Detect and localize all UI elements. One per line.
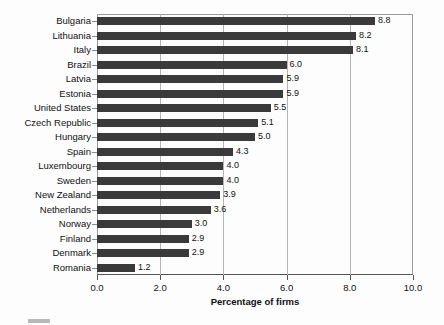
bar-value-label: 2.9: [192, 245, 205, 259]
bar-row: 6.0: [97, 58, 413, 73]
bar-row: 2.9: [97, 246, 413, 261]
bar-row: 8.1: [97, 43, 413, 58]
bar-value-label: 2.9: [192, 231, 205, 245]
bar: [97, 148, 233, 156]
bar: [97, 235, 189, 243]
bar: [97, 177, 223, 185]
bar-row: 4.3: [97, 145, 413, 160]
category-label: Bulgaria: [0, 14, 91, 29]
x-tick-mark: [413, 275, 414, 280]
category-label: United States: [0, 101, 91, 116]
bar-value-label: 1.2: [138, 260, 151, 274]
bar: [97, 46, 353, 54]
category-labels: BulgariaLithuaniaItalyBrazilLatviaEstoni…: [0, 14, 91, 275]
category-label: Czech Republic: [0, 116, 91, 131]
bar-row: 5.9: [97, 72, 413, 87]
bar: [97, 119, 258, 127]
category-label: Netherlands: [0, 203, 91, 218]
x-tick-mark: [223, 275, 224, 280]
bar-value-label: 5.5: [274, 100, 287, 114]
x-tick-mark: [97, 275, 98, 280]
category-label: Brazil: [0, 58, 91, 73]
x-tick-label: 0.0: [77, 282, 117, 293]
bar-value-label: 8.1: [356, 42, 369, 56]
bar: [97, 104, 271, 112]
bar-row: 1.2: [97, 261, 413, 276]
bar-value-label: 5.9: [286, 86, 299, 100]
bar: [97, 220, 192, 228]
category-label: Sweden: [0, 174, 91, 189]
bar: [97, 206, 211, 214]
bar-value-label: 3.0: [195, 216, 208, 230]
x-tick-label: 6.0: [267, 282, 307, 293]
x-axis-title: Percentage of firms: [97, 296, 413, 307]
category-label: Finland: [0, 232, 91, 247]
category-label: Luxembourg: [0, 159, 91, 174]
bar-value-label: 8.8: [378, 13, 391, 27]
bar-value-label: 3.9: [223, 187, 236, 201]
bar-row: 2.9: [97, 232, 413, 247]
bar: [97, 191, 220, 199]
bar-chart: BulgariaLithuaniaItalyBrazilLatviaEstoni…: [0, 0, 444, 325]
category-label: Estonia: [0, 87, 91, 102]
category-label: Italy: [0, 43, 91, 58]
x-tick-mark: [287, 275, 288, 280]
x-tick-label: 4.0: [203, 282, 243, 293]
bar-row: 5.5: [97, 101, 413, 116]
bar: [97, 264, 135, 272]
bar-value-label: 4.0: [226, 173, 239, 187]
category-label: Latvia: [0, 72, 91, 87]
bar-row: 3.9: [97, 188, 413, 203]
bar-value-label: 4.3: [236, 144, 249, 158]
x-tick-label: 2.0: [140, 282, 180, 293]
x-tick-mark: [160, 275, 161, 280]
legend-swatch: [28, 319, 50, 323]
bar-value-label: 5.1: [261, 115, 274, 129]
bar: [97, 249, 189, 257]
bar-row: 5.9: [97, 87, 413, 102]
bar-row: 4.0: [97, 159, 413, 174]
category-label: Spain: [0, 145, 91, 160]
bar-row: 8.2: [97, 29, 413, 44]
bar: [97, 61, 287, 69]
bar: [97, 133, 255, 141]
bar-row: 5.1: [97, 116, 413, 131]
category-label: New Zealand: [0, 188, 91, 203]
bar-value-label: 8.2: [359, 28, 372, 42]
bar: [97, 162, 223, 170]
bar-row: 8.8: [97, 14, 413, 29]
category-label: Lithuania: [0, 29, 91, 44]
bar-value-label: 3.6: [214, 202, 227, 216]
x-tick-label: 8.0: [330, 282, 370, 293]
bar: [97, 75, 283, 83]
category-label: Hungary: [0, 130, 91, 145]
bar-row: 3.6: [97, 203, 413, 218]
x-tick-mark: [350, 275, 351, 280]
category-label: Norway: [0, 217, 91, 232]
bar-value-label: 5.9: [286, 71, 299, 85]
bar: [97, 32, 356, 40]
bar-value-label: 6.0: [290, 57, 303, 71]
bar-row: 4.0: [97, 174, 413, 189]
x-tick-label: 10.0: [393, 282, 433, 293]
bar-value-label: 5.0: [258, 129, 271, 143]
category-label: Romania: [0, 261, 91, 276]
bar: [97, 90, 283, 98]
bar-rows: 8.88.28.16.05.95.95.55.15.04.34.04.03.93…: [97, 14, 413, 275]
bar-row: 3.0: [97, 217, 413, 232]
bar-row: 5.0: [97, 130, 413, 145]
bar-value-label: 4.0: [226, 158, 239, 172]
bar: [97, 17, 375, 25]
category-label: Denmark: [0, 246, 91, 261]
